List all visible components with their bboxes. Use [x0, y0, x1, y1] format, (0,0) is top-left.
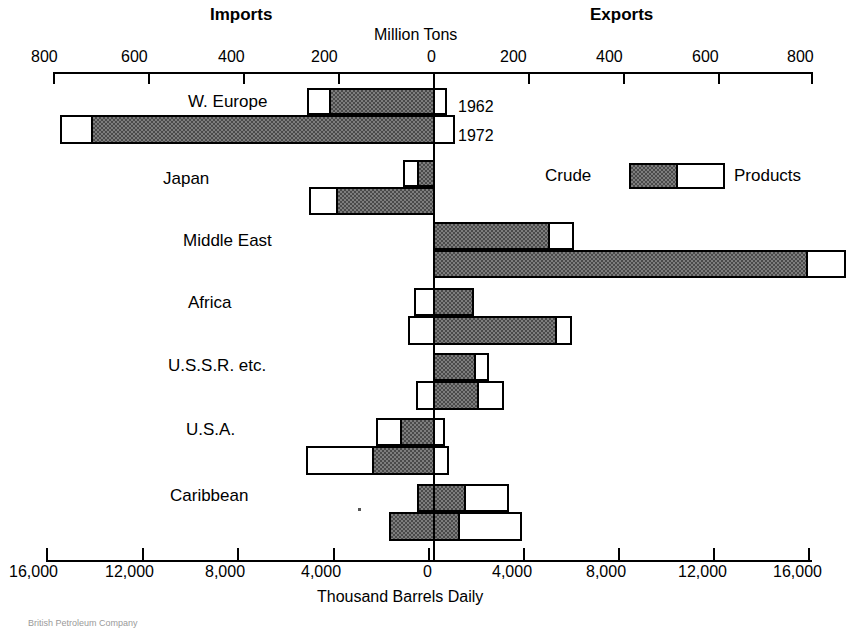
top-tick-mark-7: [718, 72, 720, 84]
year-label-1972: 1972: [458, 128, 494, 144]
top-tick-label-6: 400: [596, 49, 623, 65]
bar-japan-1972-import-products: [309, 187, 338, 215]
print-speck: [358, 508, 361, 511]
bar-middle-east-1962-export-products: [548, 222, 574, 250]
bar-w-europe-1972-import-products: [60, 115, 93, 144]
bar-ussr-1972-export-crude: [433, 381, 479, 410]
top-tick-label-2: 400: [218, 49, 245, 65]
bar-africa-1962-export-crude: [433, 288, 474, 316]
bar-africa-1972-export-products: [555, 316, 572, 345]
bottom-tick-label-3: 4,000: [301, 564, 341, 580]
bottom-tick-mark-0: [46, 548, 48, 560]
category-label-africa: Africa: [188, 294, 231, 311]
top-tick-mark-5: [528, 72, 530, 84]
top-tick-mark-3: [338, 72, 340, 84]
top-tick-label-0: 800: [31, 49, 58, 65]
bar-japan-1972-import-crude: [336, 187, 435, 215]
bar-w-europe-1962-export-products: [433, 88, 447, 115]
legend-label-products: Products: [734, 167, 801, 184]
top-tick-mark-0: [53, 72, 55, 84]
bottom-tick-mark-8: [808, 548, 810, 560]
bottom-tick-label-4: 0: [423, 564, 432, 580]
bar-usa-1962-import-crude: [400, 418, 435, 446]
bar-w-europe-1962-import-products: [307, 88, 331, 115]
bar-w-europe-1972-import-crude: [91, 115, 435, 144]
legend-swatch-crude: [629, 163, 678, 189]
bar-ussr-1962-export-crude: [433, 353, 476, 381]
bar-caribbean-1972-export-products: [458, 512, 522, 541]
bar-africa-1972-import-products: [408, 316, 435, 345]
legend-swatch-products: [676, 163, 725, 189]
year-label-1962: 1962: [458, 99, 494, 115]
bar-ussr-1972-export-products: [477, 381, 504, 410]
bar-caribbean-1972-export-crude: [433, 512, 460, 541]
bottom-axis-unit-label: Thousand Barrels Daily: [317, 589, 483, 605]
category-label-usa: U.S.A.: [186, 421, 235, 438]
bar-middle-east-1972-export-products: [806, 250, 846, 278]
category-label-w-europe: W. Europe: [188, 93, 267, 110]
bottom-tick-mark-4: [428, 548, 430, 560]
exports-header: Exports: [590, 6, 653, 23]
bar-middle-east-1962-export-crude: [433, 222, 550, 250]
top-tick-label-3: 200: [311, 49, 338, 65]
bar-ussr-1962-export-products: [474, 353, 489, 381]
bar-usa-1972-import-products: [306, 446, 374, 475]
bottom-tick-label-6: 8,000: [586, 564, 626, 580]
top-tick-mark-8: [811, 72, 813, 84]
top-tick-mark-1: [148, 72, 150, 84]
bar-caribbean-1962-export-crude: [433, 484, 466, 512]
top-tick-label-7: 600: [692, 49, 719, 65]
bar-caribbean-1972-import-crude: [389, 512, 435, 541]
bar-caribbean-1962-export-products: [464, 484, 509, 512]
category-label-japan: Japan: [163, 170, 209, 187]
bottom-tick-mark-7: [713, 548, 715, 560]
bottom-tick-label-1: 12,000: [105, 564, 154, 580]
bottom-tick-label-7: 12,000: [678, 564, 727, 580]
bar-usa-1962-import-products: [376, 418, 402, 446]
category-label-middle-east: Middle East: [183, 232, 272, 249]
bottom-tick-label-2: 8,000: [205, 564, 245, 580]
bar-usa-1972-import-crude: [372, 446, 435, 475]
bottom-tick-mark-6: [618, 548, 620, 560]
top-tick-mark-2: [243, 72, 245, 84]
category-label-ussr: U.S.S.R. etc.: [168, 357, 266, 374]
category-label-caribbean: Caribbean: [170, 487, 248, 504]
top-axis-unit-label: Million Tons: [374, 27, 457, 43]
bar-japan-1962-import-crude: [417, 160, 435, 187]
source-credit: British Petroleum Company: [28, 619, 138, 628]
bottom-axis-line: [46, 560, 812, 562]
bottom-tick-label-0: 16,000: [9, 564, 58, 580]
bottom-tick-mark-1: [142, 548, 144, 560]
bar-usa-1962-export-products: [433, 418, 445, 446]
bottom-tick-mark-3: [333, 548, 335, 560]
bottom-tick-label-8: 16,000: [773, 564, 822, 580]
bottom-tick-mark-5: [523, 548, 525, 560]
bar-africa-1972-export-crude: [433, 316, 557, 345]
top-tick-label-4: 0: [427, 49, 436, 65]
top-tick-mark-6: [623, 72, 625, 84]
top-tick-label-1: 600: [121, 49, 148, 65]
bar-w-europe-1962-import-crude: [329, 88, 435, 115]
bottom-tick-mark-2: [237, 548, 239, 560]
bar-africa-1962-import-products: [414, 288, 435, 316]
bar-middle-east-1972-export-crude: [433, 250, 808, 278]
bar-w-europe-1972-export-products: [433, 115, 455, 144]
top-tick-label-8: 800: [787, 49, 814, 65]
bar-usa-1972-export-products: [433, 446, 449, 475]
legend-label-crude: Crude: [545, 167, 591, 184]
bottom-tick-label-5: 4,000: [492, 564, 532, 580]
top-tick-label-5: 200: [500, 49, 527, 65]
imports-header: Imports: [210, 6, 272, 23]
